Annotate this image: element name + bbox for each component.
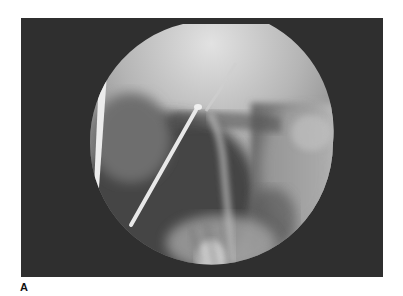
fluoroscopy-image [21, 18, 383, 277]
panel-label: A [20, 282, 28, 293]
xray-field [21, 18, 383, 277]
